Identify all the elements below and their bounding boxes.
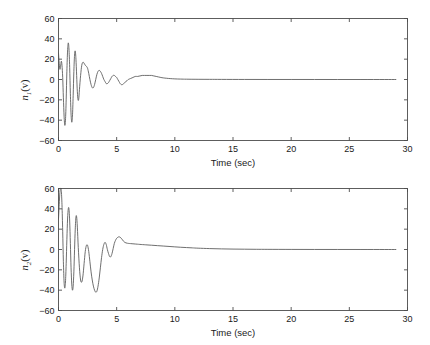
xtick-label: 15 bbox=[228, 144, 238, 154]
ytick-label: 40 bbox=[44, 34, 54, 44]
ytick-label: 20 bbox=[44, 224, 54, 234]
svg-text:Time (sec): Time (sec) bbox=[211, 157, 256, 168]
ytick-label: −20 bbox=[39, 265, 54, 275]
svg-text:Time (sec): Time (sec) bbox=[211, 327, 256, 338]
top-plot-xtick-labels: 051015202530 bbox=[56, 144, 413, 154]
xtick-label: 5 bbox=[114, 314, 119, 324]
xtick-label: 30 bbox=[402, 144, 412, 154]
xtick-label: 10 bbox=[170, 144, 180, 154]
xtick-label: 20 bbox=[286, 314, 296, 324]
svg-text:n2(v): n2(v) bbox=[19, 249, 33, 270]
ytick-label: −60 bbox=[39, 136, 54, 146]
xtick-label: 25 bbox=[344, 314, 354, 324]
bottom-plot-xaxis-title: Time (sec) bbox=[211, 327, 256, 338]
xtick-label: 25 bbox=[344, 144, 354, 154]
bottom-plot-yaxis-title: n2(v) bbox=[19, 249, 33, 270]
bottom-subplot-svg: 6040200−20−40−60 051015202530 Time (sec)… bbox=[0, 170, 430, 345]
bottom-plot-xtick-labels: 051015202530 bbox=[56, 314, 413, 324]
xtick-label: 0 bbox=[56, 144, 61, 154]
top-series-n1-line bbox=[59, 43, 396, 126]
top-plot-ytick-labels: 6040200−20−40−60 bbox=[39, 14, 54, 146]
top-subplot: 6040200−20−40−60 051015202530 Time (sec)… bbox=[0, 0, 430, 172]
ytick-label: 40 bbox=[44, 204, 54, 214]
ytick-label: 60 bbox=[44, 14, 54, 24]
ytick-label: 0 bbox=[49, 245, 54, 255]
top-plot-yaxis-title: n1(v) bbox=[19, 79, 33, 100]
ytick-label: −40 bbox=[39, 285, 54, 295]
ytick-label: −40 bbox=[39, 115, 54, 125]
xtick-label: 0 bbox=[56, 314, 61, 324]
xtick-label: 30 bbox=[402, 314, 412, 324]
ytick-label: −60 bbox=[39, 306, 54, 316]
ytick-label: 0 bbox=[49, 75, 54, 85]
svg-text:n1(v): n1(v) bbox=[19, 79, 33, 100]
bottom-subplot: 6040200−20−40−60 051015202530 Time (sec)… bbox=[0, 170, 430, 345]
figure-canvas: 6040200−20−40−60 051015202530 Time (sec)… bbox=[0, 0, 430, 345]
top-subplot-svg: 6040200−20−40−60 051015202530 Time (sec)… bbox=[0, 0, 430, 172]
bottom-series-n2-line bbox=[59, 188, 396, 292]
ytick-label: 60 bbox=[44, 184, 54, 194]
top-plot-xaxis-title: Time (sec) bbox=[211, 157, 256, 168]
xtick-label: 10 bbox=[170, 314, 180, 324]
bottom-plot-ytick-labels: 6040200−20−40−60 bbox=[39, 184, 54, 316]
ytick-label: 20 bbox=[44, 54, 54, 64]
xtick-label: 20 bbox=[286, 144, 296, 154]
ytick-label: −20 bbox=[39, 95, 54, 105]
xtick-label: 15 bbox=[228, 314, 238, 324]
xtick-label: 5 bbox=[114, 144, 119, 154]
